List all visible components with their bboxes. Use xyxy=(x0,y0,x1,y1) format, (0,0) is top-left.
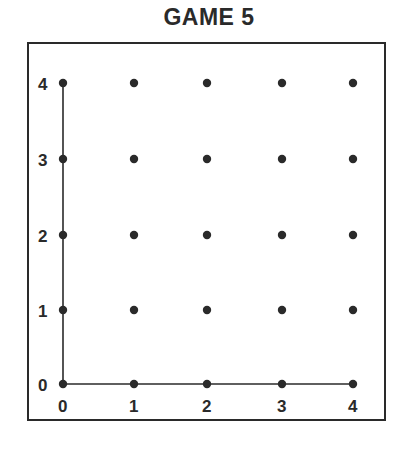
grid-dot-4-1[interactable] xyxy=(349,306,357,314)
grid-dot-2-3[interactable] xyxy=(203,155,211,163)
grid-dot-2-1[interactable] xyxy=(203,306,211,314)
grid-dot-4-0[interactable] xyxy=(349,380,357,388)
grid-dot-1-0[interactable] xyxy=(130,380,138,388)
grid-dot-2-2[interactable] xyxy=(203,231,211,239)
grid-dot-1-1[interactable] xyxy=(130,306,138,314)
grid-dot-3-4[interactable] xyxy=(278,79,286,87)
dot-grid: 4 3 2 1 0 0 1 2 3 4 xyxy=(0,0,399,455)
grid-dot-4-2[interactable] xyxy=(349,231,357,239)
grid-dot-0-4[interactable] xyxy=(59,79,67,87)
y-label-4: 4 xyxy=(38,75,48,94)
grid-dot-0-3[interactable] xyxy=(59,155,67,163)
x-label-1: 1 xyxy=(129,397,138,416)
grid-dot-4-3[interactable] xyxy=(349,155,357,163)
grid-dot-3-3[interactable] xyxy=(278,155,286,163)
x-label-4: 4 xyxy=(348,397,358,416)
grid-dot-2-0[interactable] xyxy=(203,380,211,388)
grid-dot-1-2[interactable] xyxy=(130,231,138,239)
y-label-3: 3 xyxy=(38,151,47,170)
grid-dot-4-4[interactable] xyxy=(349,79,357,87)
grid-dot-0-1[interactable] xyxy=(59,306,67,314)
grid-dot-3-0[interactable] xyxy=(278,380,286,388)
grid-dot-0-2[interactable] xyxy=(59,231,67,239)
x-label-0: 0 xyxy=(58,397,67,416)
grid-dot-1-4[interactable] xyxy=(130,79,138,87)
x-label-2: 2 xyxy=(202,397,211,416)
y-label-1: 1 xyxy=(38,302,47,321)
grid-dot-3-1[interactable] xyxy=(278,306,286,314)
x-label-3: 3 xyxy=(277,397,286,416)
grid-dot-1-3[interactable] xyxy=(130,155,138,163)
y-label-0: 0 xyxy=(38,376,47,395)
grid-dot-3-2[interactable] xyxy=(278,231,286,239)
grid-dot-2-4[interactable] xyxy=(203,79,211,87)
grid-dot-0-0[interactable] xyxy=(59,380,67,388)
y-label-2: 2 xyxy=(38,227,47,246)
